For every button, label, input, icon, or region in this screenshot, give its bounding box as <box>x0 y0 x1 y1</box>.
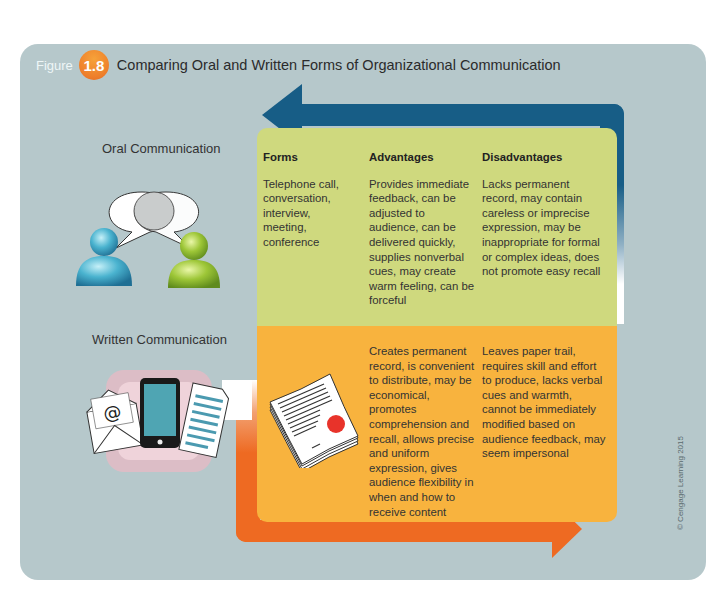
oral-advantages-text: Provides immediate feedback, can be adju… <box>369 178 474 307</box>
figure-header: Figure 1.8 Comparing Oral and Written Fo… <box>36 50 561 80</box>
forms-header: Forms <box>263 150 355 165</box>
written-advantages-column: Creates permanent record, is convenient … <box>369 344 479 519</box>
written-advantages-text: Creates permanent record, is convenient … <box>369 345 474 518</box>
oral-disadvantages-text: Lacks permanent record, may contain care… <box>482 178 600 278</box>
written-disadvantages-column: Leaves paper trail, requires skill and e… <box>482 344 607 461</box>
person-blue-icon <box>76 228 132 286</box>
figure-title: Comparing Oral and Written Forms of Orga… <box>117 57 561 73</box>
oral-disadvantages-column: Disadvantages Lacks permanent record, ma… <box>482 150 602 279</box>
copyright-notice: © Cengage Learning 2015 <box>676 436 685 530</box>
oral-communication-label: Oral Communication <box>102 141 221 156</box>
figure-word: Figure <box>36 58 73 73</box>
svg-text:@: @ <box>102 400 123 424</box>
written-disadvantages-text: Leaves paper trail, requires skill and e… <box>482 345 605 459</box>
oral-forms-column: Forms Telephone call, conversation, inte… <box>263 150 355 250</box>
orange-arrow-shaft <box>236 520 556 542</box>
oral-forms-text: Telephone call, conversation, interview,… <box>263 178 339 248</box>
disadvantages-header: Disadvantages <box>482 150 602 165</box>
oral-communication-illustration <box>70 190 230 290</box>
written-communication-label: Written Communication <box>92 332 227 347</box>
sealed-document-stack-icon <box>262 368 362 468</box>
blue-arrow-shaft <box>296 104 624 126</box>
written-communication-illustration: @ <box>84 368 234 478</box>
oral-advantages-column: Advantages Provides immediate feedback, … <box>369 150 477 308</box>
tablet-icon <box>140 378 180 448</box>
figure-number-badge: 1.8 <box>79 50 109 80</box>
advantages-header: Advantages <box>369 150 477 165</box>
